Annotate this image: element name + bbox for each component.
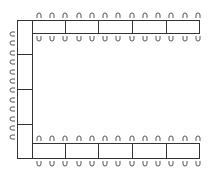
top-table-divider [65,20,66,34]
seat-icon [76,161,82,167]
seat-icon [115,36,121,42]
seat-icon [9,50,15,56]
seat-icon [76,135,82,141]
bottom-table-divider [166,143,167,159]
seat-icon [89,161,95,167]
seat-icon [182,12,188,18]
seat-icon [36,161,42,167]
seat-icon [102,36,108,42]
top-table-divider [166,20,167,34]
seat-icon [129,161,135,167]
seat-icon [62,161,68,167]
seat-icon [142,12,148,18]
seat-icon [142,135,148,141]
seat-icon [102,161,108,167]
seat-icon [62,36,68,42]
top-table [32,20,200,34]
seat-icon [36,36,42,42]
seat-icon [182,161,188,167]
seat-icon [9,87,15,93]
seat-icon [115,135,121,141]
seat-icon [168,12,174,18]
seat-icon [89,36,95,42]
seat-icon [115,161,121,167]
seat-icon [195,36,201,42]
seat-icon [76,36,82,42]
seat-icon [49,12,55,18]
bottom-table-divider [98,143,99,159]
seat-icon [9,31,15,37]
seat-icon [36,12,42,18]
seat-icon [9,40,15,46]
seat-icon [129,12,135,18]
seat-icon [76,12,82,18]
seat-icon [168,135,174,141]
seat-icon [89,12,95,18]
seat-icon [102,12,108,18]
seat-icon [115,12,121,18]
bottom-table-divider [65,143,66,159]
seat-icon [102,135,108,141]
seat-icon [155,135,161,141]
seat-icon [36,135,42,141]
bottom-table [32,143,200,159]
left-table-divider [17,54,33,55]
bottom-table-divider [132,143,133,159]
seat-icon [9,69,15,75]
seat-icon [62,12,68,18]
seat-icon [89,135,95,141]
seat-icon [155,36,161,42]
seat-icon [168,36,174,42]
seat-icon [195,161,201,167]
left-table-divider [17,89,33,90]
seat-icon [182,36,188,42]
top-table-divider [98,20,99,34]
seat-icon [129,36,135,42]
top-table-divider [132,20,133,34]
seat-icon [182,135,188,141]
seat-icon [49,161,55,167]
seat-icon [195,135,201,141]
seat-icon [9,97,15,103]
seat-icon [9,125,15,131]
left-table-divider [17,124,33,125]
seat-icon [129,135,135,141]
seat-icon [9,134,15,140]
seat-icon [142,36,148,42]
seat-icon [195,12,201,18]
seat-icon [155,161,161,167]
seat-icon [9,106,15,112]
seat-icon [9,59,15,65]
seat-icon [9,116,15,122]
seat-icon [142,161,148,167]
seat-icon [49,135,55,141]
seat-icon [9,78,15,84]
seat-icon [49,36,55,42]
seat-icon [155,12,161,18]
seat-icon [168,161,174,167]
seat-icon [62,135,68,141]
